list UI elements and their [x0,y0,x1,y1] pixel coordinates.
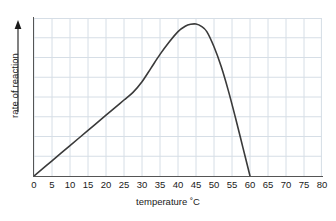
x-tick-label-55: 55 [227,179,238,191]
x-tick-label-75: 75 [299,179,310,191]
x-tick-label-40: 40 [173,179,184,191]
reaction-rate-curve [34,24,250,176]
reaction-rate-chart: rate of reaction 05101520253035404550556… [0,0,336,221]
y-axis-line [33,17,34,177]
x-axis-title: temperature ˚C [0,196,336,207]
x-tick-label-65: 65 [263,179,274,191]
y-axis-label-group: rate of reaction [0,18,28,176]
x-tick-label-15: 15 [83,179,94,191]
x-axis-tick-labels: 05101520253035404550556065707580 [34,179,322,193]
x-tick-label-35: 35 [155,179,166,191]
x-axis-line [33,176,323,177]
x-tick-label-70: 70 [281,179,292,191]
x-tick-label-50: 50 [209,179,220,191]
x-tick-label-45: 45 [191,179,202,191]
y-axis-title: rate of reaction [9,20,20,152]
x-tick-label-60: 60 [245,179,256,191]
x-tick-label-20: 20 [101,179,112,191]
x-tick-label-25: 25 [119,179,130,191]
x-tick-label-80: 80 [317,179,328,191]
x-tick-label-0: 0 [31,179,36,191]
x-tick-label-5: 5 [49,179,54,191]
x-tick-label-10: 10 [65,179,76,191]
plot-area [34,18,322,176]
data-series-reaction-rate [34,18,322,176]
x-tick-label-30: 30 [137,179,148,191]
